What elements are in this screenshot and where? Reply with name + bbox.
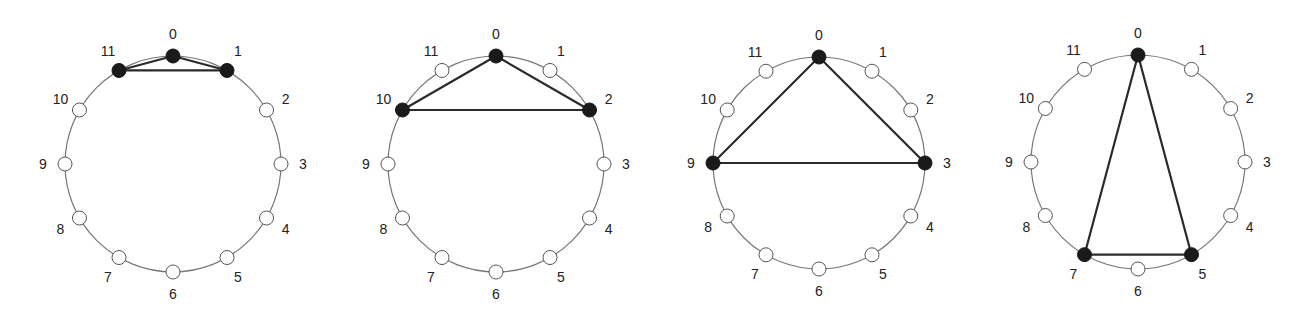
node-label-1: 1 <box>557 43 565 59</box>
empty-node-4 <box>1224 209 1238 223</box>
triangle-edge-0-2 <box>496 56 590 110</box>
filled-node-0 <box>1131 48 1145 62</box>
node-label-5: 5 <box>234 269 242 285</box>
node-label-3: 3 <box>1263 154 1271 170</box>
empty-node-6 <box>1131 262 1145 276</box>
node-label-5: 5 <box>557 269 565 285</box>
empty-node-7 <box>759 248 773 262</box>
empty-node-2 <box>260 103 274 117</box>
node-label-7: 7 <box>751 266 759 282</box>
empty-node-8 <box>1038 209 1052 223</box>
node-label-2: 2 <box>926 91 934 107</box>
empty-node-7 <box>435 251 449 265</box>
ring-circle <box>65 56 281 272</box>
ring-circle <box>388 56 604 272</box>
node-label-0: 0 <box>815 27 823 43</box>
node-label-2: 2 <box>605 91 613 107</box>
node-label-8: 8 <box>1022 219 1030 235</box>
filled-node-0 <box>489 49 503 63</box>
node-label-9: 9 <box>1005 154 1013 170</box>
empty-node-1 <box>865 64 879 78</box>
filled-node-1 <box>220 63 234 77</box>
empty-node-9 <box>58 157 72 171</box>
triangle-edge-7-0 <box>1085 55 1139 255</box>
node-label-11: 11 <box>101 43 116 59</box>
node-label-1: 1 <box>879 44 887 60</box>
empty-node-8 <box>72 211 86 225</box>
empty-node-7 <box>112 251 126 265</box>
triangle-edge-11-0 <box>119 56 173 70</box>
filled-node-3 <box>918 156 932 170</box>
empty-node-8 <box>395 211 409 225</box>
node-label-3: 3 <box>299 156 307 172</box>
node-label-11: 11 <box>424 43 439 59</box>
empty-node-11 <box>759 64 773 78</box>
node-label-10: 10 <box>376 91 392 107</box>
node-label-6: 6 <box>1134 283 1142 299</box>
diagram-panel-2: 01234567891011 <box>362 26 630 302</box>
empty-node-9 <box>381 157 395 171</box>
node-label-10: 10 <box>1018 90 1034 106</box>
node-label-9: 9 <box>39 156 47 172</box>
filled-node-2 <box>583 103 597 117</box>
filled-node-10 <box>395 103 409 117</box>
empty-node-6 <box>812 262 826 276</box>
node-label-5: 5 <box>1199 266 1207 282</box>
filled-node-0 <box>166 49 180 63</box>
empty-node-5 <box>543 251 557 265</box>
node-label-11: 11 <box>748 44 763 60</box>
node-label-0: 0 <box>492 26 500 42</box>
node-label-8: 8 <box>704 219 712 235</box>
node-label-2: 2 <box>282 91 290 107</box>
node-label-4: 4 <box>605 221 613 237</box>
triangle-edge-0-1 <box>173 56 227 70</box>
triangle-circle-diagrams: 0123456789101101234567891011012345678910… <box>0 0 1306 316</box>
node-label-0: 0 <box>169 26 177 42</box>
node-label-3: 3 <box>943 155 951 171</box>
empty-node-2 <box>904 103 918 117</box>
empty-node-1 <box>543 63 557 77</box>
empty-node-11 <box>435 63 449 77</box>
empty-node-5 <box>865 248 879 262</box>
empty-node-5 <box>220 251 234 265</box>
diagram-panel-4: 01234567891011 <box>1005 25 1271 299</box>
empty-node-3 <box>1238 155 1252 169</box>
filled-node-7 <box>1078 248 1092 262</box>
filled-node-5 <box>1185 248 1199 262</box>
node-label-6: 6 <box>815 283 823 299</box>
node-label-4: 4 <box>282 221 290 237</box>
ring-circle <box>1031 55 1245 269</box>
node-label-4: 4 <box>1246 219 1254 235</box>
node-label-9: 9 <box>362 156 370 172</box>
empty-node-2 <box>1224 102 1238 116</box>
node-label-10: 10 <box>700 91 716 107</box>
empty-node-10 <box>720 103 734 117</box>
node-label-7: 7 <box>104 269 112 285</box>
node-label-1: 1 <box>234 43 242 59</box>
triangle-edge-10-0 <box>402 56 496 110</box>
node-label-5: 5 <box>879 266 887 282</box>
triangle-edge-0-5 <box>1138 55 1192 255</box>
node-label-3: 3 <box>622 156 630 172</box>
empty-node-1 <box>1185 62 1199 76</box>
node-label-11: 11 <box>1066 42 1081 58</box>
node-label-1: 1 <box>1199 42 1207 58</box>
empty-node-3 <box>597 157 611 171</box>
empty-node-6 <box>489 265 503 279</box>
node-label-6: 6 <box>492 286 500 302</box>
empty-node-10 <box>72 103 86 117</box>
empty-node-3 <box>274 157 288 171</box>
node-label-0: 0 <box>1134 25 1142 41</box>
diagram-panel-1: 01234567891011 <box>39 26 307 302</box>
empty-node-9 <box>1024 155 1038 169</box>
node-label-7: 7 <box>427 269 435 285</box>
node-label-7: 7 <box>1070 266 1078 282</box>
node-label-6: 6 <box>169 286 177 302</box>
node-label-9: 9 <box>687 155 695 171</box>
figure-canvas: 0123456789101101234567891011012345678910… <box>0 0 1306 316</box>
empty-node-11 <box>1078 62 1092 76</box>
node-label-4: 4 <box>926 219 934 235</box>
empty-node-10 <box>1038 102 1052 116</box>
filled-node-11 <box>112 63 126 77</box>
filled-node-0 <box>812 50 826 64</box>
